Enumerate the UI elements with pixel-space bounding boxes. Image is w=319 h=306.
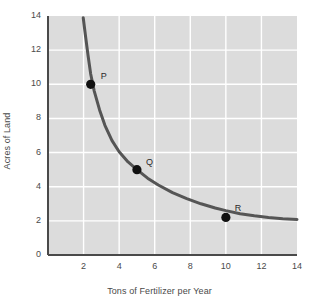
x-tick-label: 2 (74, 261, 94, 271)
x-tick-label: 10 (216, 261, 236, 271)
data-point-marker (132, 165, 141, 174)
data-point-marker (86, 80, 95, 89)
x-tick-label: 6 (145, 261, 165, 271)
x-tick-label: 8 (180, 261, 200, 271)
x-tick-label: 4 (109, 261, 129, 271)
data-point-label: P (101, 71, 107, 81)
y-tick-label: 2 (21, 215, 41, 225)
chart-container: Acres of Land Tons of Fertilizer per Yea… (0, 0, 319, 306)
y-tick-label: 12 (21, 44, 41, 54)
x-tick-label: 14 (287, 261, 307, 271)
y-tick-label: 0 (21, 249, 41, 259)
data-point-marker (221, 213, 230, 222)
y-tick-label: 14 (21, 10, 41, 20)
plot-background (48, 16, 297, 255)
y-tick-label: 10 (21, 78, 41, 88)
data-point-label: R (235, 203, 242, 213)
y-tick-label: 8 (21, 112, 41, 122)
y-tick-label: 4 (21, 181, 41, 191)
x-axis-title: Tons of Fertilizer per Year (0, 286, 319, 296)
y-axis-title: Acres of Land (2, 91, 12, 191)
y-tick-label: 6 (21, 147, 41, 157)
data-point-label: Q (146, 157, 153, 167)
x-tick-label: 12 (251, 261, 271, 271)
